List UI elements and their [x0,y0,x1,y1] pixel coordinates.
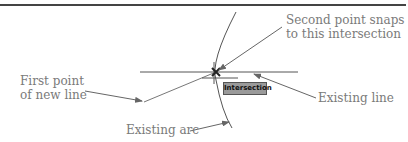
intersection-tooltip: Intersection [223,82,267,95]
snap-diagram: Second point snaps to this intersection … [0,0,408,142]
label-line: of new line [20,88,82,102]
label-line: First point [20,74,82,88]
label-existing-arc: Existing arc [126,123,199,137]
label-second-point: Second point snaps to this intersection [286,13,404,41]
arrow-second-point [219,27,282,70]
arrow-first-point [85,91,142,101]
label-existing-line: Existing line [318,91,394,105]
new-line [144,72,216,102]
label-first-point: First point of new line [20,74,82,102]
label-line: to this intersection [286,27,404,41]
label-line: Second point snaps [286,13,404,27]
